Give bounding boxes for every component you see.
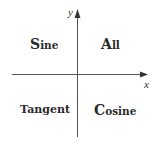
y-axis-label: y <box>68 7 73 18</box>
axes-graphic <box>0 0 159 144</box>
sine-rest: ine <box>40 39 58 51</box>
sine-initial: S <box>30 36 40 52</box>
cosine-initial: C <box>94 102 105 118</box>
x-axis-arrow-icon <box>140 72 148 78</box>
all-initial: A <box>101 36 112 52</box>
y-axis-arrow-icon <box>75 9 81 18</box>
astc-quadrant-diagram: y x Sine All Tangent Cosine <box>0 0 159 144</box>
quadrant-2-label: Sine <box>30 36 58 52</box>
all-rest: ll <box>112 39 120 51</box>
quadrant-1-label: All <box>101 36 120 52</box>
quadrant-4-label: Cosine <box>94 102 136 118</box>
x-axis-label: x <box>144 79 149 90</box>
quadrant-3-label: Tangent <box>20 104 70 115</box>
cosine-rest: osine <box>105 105 136 117</box>
